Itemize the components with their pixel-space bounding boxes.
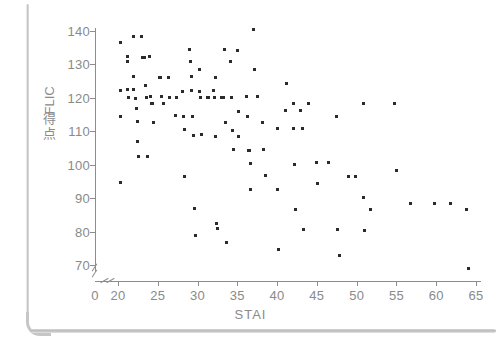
data-point bbox=[199, 96, 202, 99]
data-point bbox=[302, 228, 305, 231]
data-point bbox=[253, 68, 256, 71]
data-point bbox=[362, 196, 365, 199]
data-point bbox=[188, 48, 191, 51]
data-points-layer bbox=[0, 0, 501, 351]
data-point bbox=[393, 102, 396, 105]
data-point bbox=[222, 96, 225, 99]
data-point bbox=[194, 234, 197, 237]
data-point bbox=[132, 88, 135, 91]
data-point bbox=[467, 267, 470, 270]
data-point bbox=[159, 76, 162, 79]
data-point bbox=[246, 115, 249, 118]
data-point bbox=[126, 88, 129, 91]
data-point bbox=[256, 95, 259, 98]
data-point bbox=[200, 133, 203, 136]
data-point bbox=[230, 96, 233, 99]
data-point bbox=[175, 96, 178, 99]
data-point bbox=[299, 109, 302, 112]
data-point bbox=[214, 135, 217, 138]
data-point bbox=[148, 55, 151, 58]
data-point bbox=[223, 48, 226, 51]
data-point bbox=[119, 115, 122, 118]
data-point bbox=[449, 202, 452, 205]
data-point bbox=[347, 175, 350, 178]
data-point bbox=[183, 175, 186, 178]
data-point bbox=[145, 96, 148, 99]
data-point bbox=[132, 35, 135, 38]
data-point bbox=[152, 121, 155, 124]
data-point bbox=[338, 254, 341, 257]
data-point bbox=[183, 128, 186, 131]
data-point bbox=[214, 76, 217, 79]
data-point bbox=[151, 102, 154, 105]
data-point bbox=[285, 82, 288, 85]
data-point bbox=[252, 28, 255, 31]
data-point bbox=[433, 202, 436, 205]
data-point bbox=[307, 102, 310, 105]
y-axis-title: FLIC 得点 bbox=[38, 96, 60, 141]
data-point bbox=[354, 175, 357, 178]
data-point bbox=[132, 75, 135, 78]
data-point bbox=[162, 102, 165, 105]
data-point bbox=[143, 56, 146, 59]
data-point bbox=[168, 96, 171, 99]
data-point bbox=[229, 60, 232, 63]
data-point bbox=[277, 248, 280, 251]
data-point bbox=[119, 181, 122, 184]
data-point bbox=[207, 96, 210, 99]
data-point bbox=[167, 76, 170, 79]
data-point bbox=[292, 102, 295, 105]
data-point bbox=[193, 207, 196, 210]
data-point bbox=[292, 127, 295, 130]
data-point bbox=[137, 155, 140, 158]
data-point bbox=[248, 149, 251, 152]
data-point bbox=[301, 127, 304, 130]
data-point bbox=[146, 155, 149, 158]
data-point bbox=[134, 97, 137, 100]
data-point bbox=[190, 75, 193, 78]
data-point bbox=[119, 41, 122, 44]
data-point bbox=[249, 162, 252, 165]
data-point bbox=[245, 95, 248, 98]
data-point bbox=[362, 102, 365, 105]
data-point bbox=[395, 169, 398, 172]
data-point bbox=[236, 49, 239, 52]
data-point bbox=[284, 109, 287, 112]
x-axis-title: STAI bbox=[0, 307, 501, 322]
data-point bbox=[264, 174, 267, 177]
data-point bbox=[261, 121, 264, 124]
data-point bbox=[149, 95, 152, 98]
data-point bbox=[135, 107, 138, 110]
data-point bbox=[119, 89, 122, 92]
data-point bbox=[294, 208, 297, 211]
scatter-plot: 708090100110120130140 020253035404550556… bbox=[0, 0, 501, 351]
data-point bbox=[276, 188, 279, 191]
data-point bbox=[126, 55, 129, 58]
data-point bbox=[225, 241, 228, 244]
data-point bbox=[174, 114, 177, 117]
data-point bbox=[127, 96, 130, 99]
data-point bbox=[160, 95, 163, 98]
data-point bbox=[181, 90, 184, 93]
data-point bbox=[182, 115, 185, 118]
data-point bbox=[316, 182, 319, 185]
data-point bbox=[189, 60, 192, 63]
data-point bbox=[249, 188, 252, 191]
data-point bbox=[276, 127, 279, 130]
data-point bbox=[191, 115, 194, 118]
data-point bbox=[140, 35, 143, 38]
data-point bbox=[237, 135, 240, 138]
data-point bbox=[144, 84, 147, 87]
data-point bbox=[262, 148, 265, 151]
data-point bbox=[198, 90, 201, 93]
y-axis-title-japanese: 得点 bbox=[38, 111, 60, 141]
data-point bbox=[327, 161, 330, 164]
data-point bbox=[232, 148, 235, 151]
data-point bbox=[335, 115, 338, 118]
data-point bbox=[213, 96, 216, 99]
data-point bbox=[216, 227, 219, 230]
data-point bbox=[409, 202, 412, 205]
data-point bbox=[198, 68, 201, 71]
data-point bbox=[136, 140, 139, 143]
data-point bbox=[215, 222, 218, 225]
